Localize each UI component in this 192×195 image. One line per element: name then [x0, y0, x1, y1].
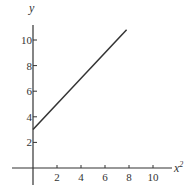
- y-tick-label: 8: [27, 60, 33, 72]
- series-line: [33, 30, 127, 130]
- x-axis-label-superscript: 2: [179, 160, 183, 169]
- y-tick-label: 10: [21, 34, 33, 46]
- y-tick-label: 2: [27, 136, 33, 148]
- axes: [12, 25, 172, 185]
- x-tick-label: 8: [126, 171, 132, 183]
- x-tick-label: 6: [102, 171, 108, 183]
- x-tick-label: 10: [148, 171, 160, 183]
- x-tick-label: 4: [78, 171, 84, 183]
- y-tick-label: 4: [27, 111, 33, 123]
- ticks: 246810246810: [21, 34, 159, 183]
- y-axis-label: y: [28, 1, 35, 15]
- x-axis-label: x2: [173, 160, 183, 175]
- series: [33, 30, 127, 130]
- y-tick-label: 6: [27, 85, 33, 97]
- chart: 246810246810 y x2: [0, 0, 192, 195]
- x-tick-label: 2: [54, 171, 60, 183]
